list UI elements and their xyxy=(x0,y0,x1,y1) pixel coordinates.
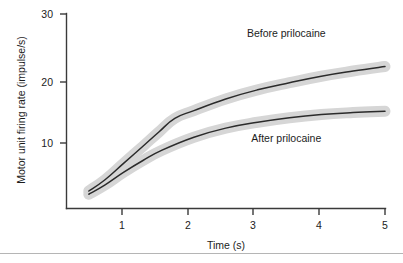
x-tick-label-5: 5 xyxy=(382,219,388,231)
y-axis-title: Motor unit firing rate (impulse/s) xyxy=(15,36,27,184)
y-tick-label-30: 30 xyxy=(41,8,53,20)
y-tick-label-20: 20 xyxy=(41,76,53,88)
x-tick-label-3: 3 xyxy=(250,219,256,231)
x-tick-label-2: 2 xyxy=(185,219,191,231)
annotation-after-prilocaine: After prilocaine xyxy=(251,132,321,144)
annotation-before-prilocaine: Before prilocaine xyxy=(247,27,326,39)
figure-container: 30 20 10 1 2 3 4 5 Time (s) Motor unit f… xyxy=(0,0,403,263)
x-tick-label-4: 4 xyxy=(316,219,322,231)
x-tick-label-1: 1 xyxy=(119,219,125,231)
y-tick-label-10: 10 xyxy=(41,137,53,149)
line-chart: 30 20 10 1 2 3 4 5 Time (s) Motor unit f… xyxy=(0,0,403,263)
footer-divider xyxy=(0,253,403,254)
x-axis-title: Time (s) xyxy=(207,239,245,251)
